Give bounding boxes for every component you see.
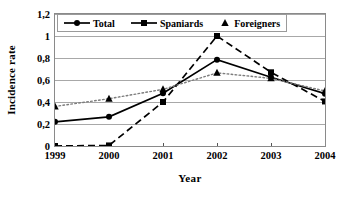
square-marker bbox=[131, 18, 157, 28]
y-tick-label: 0,4 bbox=[18, 97, 50, 108]
plot-area bbox=[54, 13, 326, 147]
data-point-total-2002 bbox=[214, 57, 220, 63]
data-point-spaniards-2000 bbox=[106, 142, 112, 146]
data-point-foreigners-2002 bbox=[213, 69, 220, 76]
data-point-spaniards-1999 bbox=[55, 143, 58, 146]
y-axis-title-text: Incidence rate bbox=[5, 45, 17, 115]
x-tick-label-2000: 2000 bbox=[99, 150, 120, 161]
x-tick-label-2004: 2004 bbox=[315, 150, 336, 161]
data-point-spaniards-2002 bbox=[214, 33, 220, 39]
data-point-total-2000 bbox=[106, 114, 112, 120]
legend-label: Spaniards bbox=[160, 18, 203, 29]
x-axis-tick-labels: 199920002001200220032004 bbox=[54, 150, 326, 166]
series-line-foreigners bbox=[55, 73, 325, 107]
incidence-rate-chart: Incidence rate 00,20,40,60,811,2 1999200… bbox=[0, 0, 342, 202]
y-tick-label: 0,2 bbox=[18, 119, 50, 130]
y-tick-label: 0,6 bbox=[18, 75, 50, 86]
legend-label: Total bbox=[93, 18, 115, 29]
x-tick-label-2002: 2002 bbox=[207, 150, 228, 161]
circle-marker bbox=[64, 18, 90, 28]
triangle-marker bbox=[219, 18, 231, 28]
x-tick-label-2001: 2001 bbox=[153, 150, 174, 161]
x-tick-label-2003: 2003 bbox=[261, 150, 282, 161]
y-tick-label: 1,2 bbox=[18, 9, 50, 20]
legend-entry-foreigners[interactable]: Foreigners bbox=[219, 18, 280, 29]
x-axis-title: Year bbox=[54, 172, 326, 184]
series-line-spaniards bbox=[55, 36, 325, 146]
legend-entry-spaniards[interactable]: Spaniards bbox=[131, 18, 203, 29]
data-point-spaniards-2004 bbox=[322, 98, 325, 104]
data-point-spaniards-2001 bbox=[160, 99, 166, 105]
chart-legend: TotalSpaniardsForeigners bbox=[57, 14, 287, 32]
legend-label: Foreigners bbox=[234, 18, 280, 29]
y-axis-tick-labels: 00,20,40,60,811,2 bbox=[18, 0, 50, 160]
legend-entry-total[interactable]: Total bbox=[64, 18, 115, 29]
x-tick-label-1999: 1999 bbox=[45, 150, 66, 161]
plot-canvas bbox=[55, 14, 325, 146]
y-tick-label: 1 bbox=[18, 31, 50, 42]
y-tick-label: 0,8 bbox=[18, 53, 50, 64]
